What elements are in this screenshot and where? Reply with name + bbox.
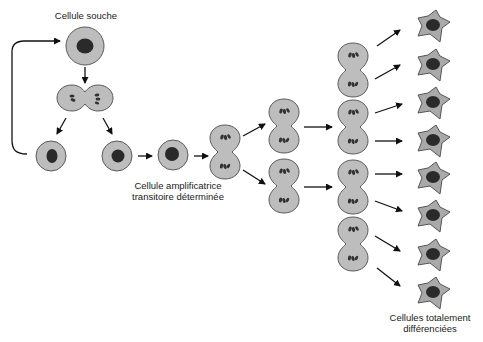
differentiated-cell xyxy=(418,87,450,119)
transit-cell-label: Cellule amplificatrice transitoire déter… xyxy=(118,180,238,202)
differentiated-cell xyxy=(418,10,450,42)
differentiated-cell xyxy=(418,277,450,309)
daughter-committed-cell xyxy=(102,141,132,171)
arrows-to-differentiated xyxy=(375,30,402,286)
transit-division-3d xyxy=(338,217,368,271)
transit-cell-label-line1: Cellule amplificatrice xyxy=(118,180,238,191)
transit-cell-label-line2: transitoire déterminée xyxy=(118,191,238,202)
stem-cell xyxy=(66,27,104,65)
differentiated-cell xyxy=(418,125,450,157)
differentiated-cell xyxy=(418,49,450,81)
transit-division-2a xyxy=(269,99,299,153)
daughter-stem-cell xyxy=(36,141,66,171)
arrow-division-to-daughter-right xyxy=(103,118,112,134)
stem-cell-lineage-diagram xyxy=(0,0,483,342)
arrow-to-division-2b xyxy=(243,170,265,184)
differentiated-cells-label: Cellules totalement différenciées xyxy=(380,312,480,334)
differentiated-cell xyxy=(418,200,450,232)
transit-amplifying-cell xyxy=(158,140,188,170)
arrow-to-division-2a xyxy=(243,124,265,136)
stem-cell-dividing xyxy=(57,85,113,111)
self-renewal-arrow xyxy=(12,41,60,154)
transit-division-1 xyxy=(210,125,240,179)
transit-division-3a xyxy=(338,43,368,97)
differentiated-label-line1: Cellules totalement xyxy=(380,312,480,323)
transit-division-3c xyxy=(338,160,368,214)
differentiated-cell xyxy=(418,162,450,194)
differentiated-cell xyxy=(418,239,450,271)
transit-division-2b xyxy=(269,159,299,213)
arrow-division-to-daughter-left xyxy=(57,118,66,134)
transit-division-3b xyxy=(338,100,368,154)
stem-cell-label: Cellule souche xyxy=(51,10,121,21)
differentiated-label-line2: différenciées xyxy=(380,323,480,334)
